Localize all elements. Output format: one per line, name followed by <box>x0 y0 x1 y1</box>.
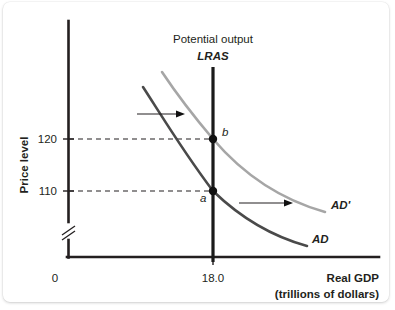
ad-curve-label: AD <box>311 233 329 245</box>
y-tick-label-120: 120 <box>38 133 57 145</box>
potential-output-label: Potential output <box>173 33 254 45</box>
aggregate-demand-chart: Potential output LRAS b a AD' AD 120 110… <box>0 0 395 310</box>
shift-arrow-lower <box>239 200 293 207</box>
lras-label: LRAS <box>197 50 229 62</box>
equilibrium-dot-b <box>209 135 217 143</box>
ad-curve <box>143 87 307 246</box>
equilibrium-dot-a <box>209 187 217 195</box>
figure-panel: Potential output LRAS b a AD' AD 120 110… <box>0 0 395 310</box>
point-b-label: b <box>222 126 229 138</box>
y-axis-label: Price level <box>18 137 30 194</box>
y-axis-break-icon <box>62 226 75 240</box>
guide-lines-group <box>69 139 211 191</box>
y-tick-label-110: 110 <box>39 185 57 197</box>
point-a-label: a <box>200 192 206 204</box>
x-axis-label: Real GDP <box>327 272 380 284</box>
x-axis-sublabel: (trillions of dollars) <box>275 288 379 300</box>
x-tick-label-18: 18.0 <box>202 272 224 284</box>
origin-label: 0 <box>52 272 58 284</box>
adprime-curve-label: AD' <box>330 199 352 211</box>
